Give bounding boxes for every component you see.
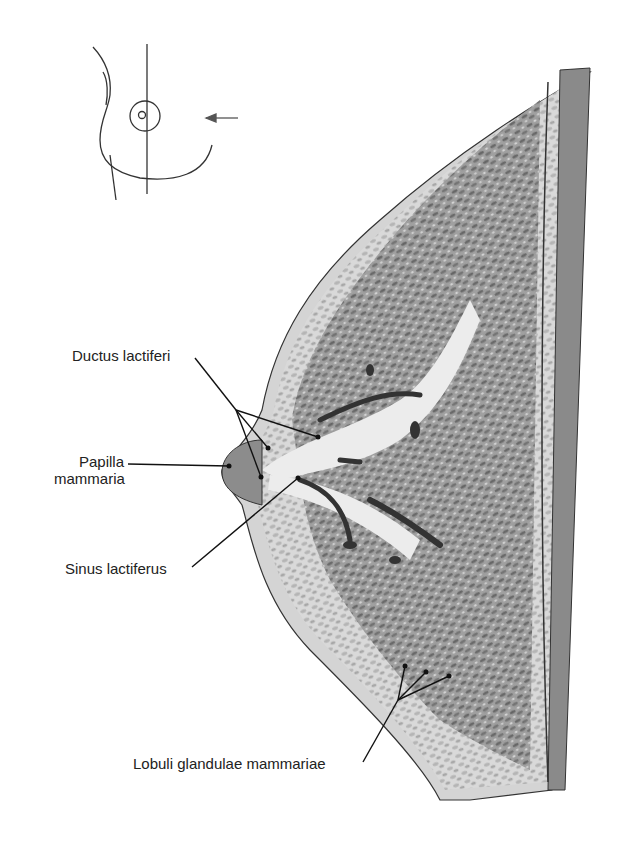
breast-section: [222, 68, 590, 800]
orientation-inset: [93, 44, 238, 200]
label-papilla-line1: Papilla: [68, 453, 124, 471]
breast-section-illustration: [0, 0, 617, 844]
label-lobuli-glandulae: Lobuli glandulae mammariae: [133, 755, 326, 773]
label-sinus-lactiferus: Sinus lactiferus: [65, 560, 167, 578]
label-papilla-line2: mammaria: [54, 470, 125, 488]
view-arrow-icon: [206, 114, 216, 122]
label-ductus-lactiferi: Ductus lactiferi: [72, 347, 170, 365]
